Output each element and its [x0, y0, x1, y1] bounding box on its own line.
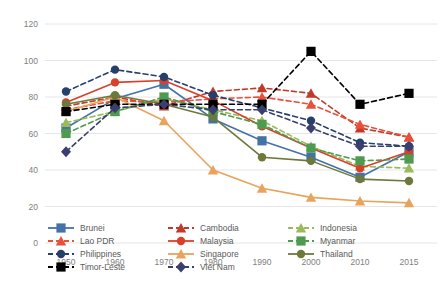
legend-label: Singapore: [200, 249, 239, 259]
y-tick-label: 60: [29, 129, 39, 139]
legend-marker: [296, 236, 305, 245]
x-tick-label: 2000: [302, 257, 321, 267]
legend-label: Timor-Leste: [80, 262, 125, 272]
data-point: [62, 87, 70, 95]
legend-marker: [56, 223, 65, 232]
x-tick-label: 2010: [351, 257, 370, 267]
data-point: [404, 154, 413, 163]
y-tick-label: 80: [29, 92, 39, 102]
legend-label: Lao PDR: [80, 236, 115, 246]
legend-label: Viet Nam: [200, 262, 235, 272]
data-point: [355, 156, 364, 165]
x-tick-label: 2015: [400, 257, 419, 267]
data-point: [160, 73, 168, 81]
legend-label: Myanmar: [320, 236, 356, 246]
data-point: [61, 107, 70, 116]
legend-label: Thailand: [320, 249, 353, 259]
legend-label: Indonesia: [320, 223, 357, 233]
x-tick-label: 1990: [253, 257, 272, 267]
legend-item-myanmar[interactable]: Myanmar: [288, 236, 356, 246]
legend-label: Brunei: [80, 223, 105, 233]
legend-marker: [56, 262, 65, 271]
data-point: [355, 100, 364, 109]
legend-item-timor-leste[interactable]: Timor-Leste: [48, 262, 125, 272]
line-chart: 020406080100120 195019601970198019902000…: [0, 0, 448, 308]
legend-label: Philippines: [80, 249, 121, 259]
data-point: [257, 136, 266, 145]
y-tick-label: 100: [24, 56, 38, 66]
legend-label: Cambodia: [200, 223, 239, 233]
data-point: [111, 65, 119, 73]
chart-canvas: 020406080100120 195019601970198019902000…: [0, 0, 448, 308]
data-point: [61, 129, 70, 138]
data-point: [111, 91, 119, 99]
data-point: [306, 144, 315, 153]
y-tick-label: 40: [29, 165, 39, 175]
y-tick-label: 20: [29, 202, 39, 212]
x-tick-label: 1970: [155, 257, 174, 267]
y-tick-label: 120: [24, 19, 38, 29]
data-point: [257, 120, 266, 129]
data-point: [258, 153, 266, 161]
data-point: [111, 78, 119, 86]
data-point: [404, 89, 413, 98]
y-tick-label: 0: [33, 238, 38, 248]
data-point: [405, 177, 413, 185]
data-point: [356, 175, 364, 183]
legend-marker: [297, 250, 305, 258]
legend-marker: [57, 250, 65, 258]
legend-marker: [177, 237, 185, 245]
legend-label: Malaysia: [200, 236, 234, 246]
data-point: [306, 47, 315, 56]
data-point: [307, 157, 315, 165]
data-point: [209, 91, 217, 99]
